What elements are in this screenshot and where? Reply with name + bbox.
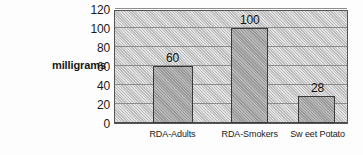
bar-chart-figure: milligrams 020406080100120 6010028 RDA-A… — [0, 0, 363, 155]
x-axis-category-label: Sw eet Potato — [271, 129, 363, 139]
x-axis-category-labels: RDA-AdultsRDA-SmokersSw eet Potato — [114, 129, 348, 149]
bar-value-label: 60 — [144, 51, 200, 65]
bar-value-labels: 6010028 — [114, 10, 348, 124]
y-axis-tick-label: 20 — [74, 98, 110, 112]
bar-value-label: 100 — [222, 13, 278, 27]
y-axis-tick-label: 120 — [74, 3, 110, 17]
y-axis-tick-label: 40 — [74, 79, 110, 93]
bar-value-label: 28 — [290, 81, 346, 95]
y-axis-tick-label: 100 — [74, 22, 110, 36]
y-axis-tick-label: 60 — [74, 60, 110, 74]
y-axis-tick-labels: 020406080100120 — [74, 0, 110, 155]
y-axis-tick-label: 0 — [74, 117, 110, 131]
y-axis-tick-label: 80 — [74, 41, 110, 55]
gridline — [115, 8, 347, 9]
